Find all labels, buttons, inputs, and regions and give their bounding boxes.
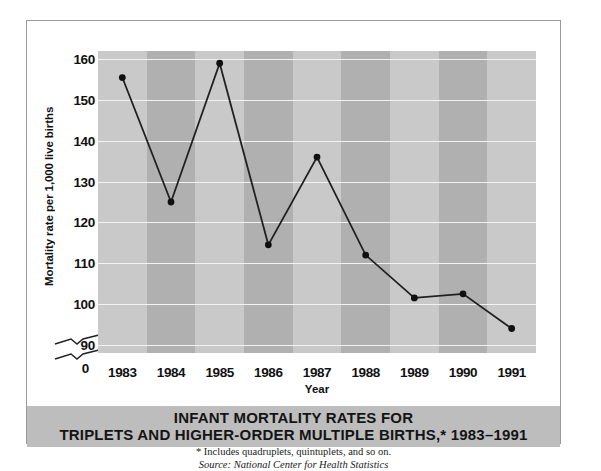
data-point-marker (168, 199, 175, 206)
x-axis-tick-labels: 198319841985198619871988198919901991 (98, 365, 536, 383)
data-point-marker (314, 154, 321, 161)
plot-area (98, 51, 536, 353)
y-axis-tick-labels: 16015014013012011010090 (41, 51, 95, 353)
y-tick-label: 100 (47, 297, 95, 312)
data-point-marker (119, 74, 126, 81)
data-point-marker (265, 241, 272, 248)
footnote-block: * Includes quadruplets, quintuplets, and… (27, 445, 560, 471)
chart-title-line-2: TRIPLETS AND HIGHER-ORDER MULTIPLE BIRTH… (27, 426, 560, 443)
y-tick-label: 120 (47, 215, 95, 230)
data-point-marker (508, 325, 515, 332)
y-tick-label: 130 (47, 174, 95, 189)
y-tick-label: 140 (47, 133, 95, 148)
data-point-marker (460, 290, 467, 297)
x-axis-title: Year (98, 383, 536, 395)
source-text: Source: National Center for Health Stati… (27, 458, 560, 471)
series-line (122, 63, 511, 328)
axis-break-icon (53, 333, 101, 363)
x-tick-label: 1991 (482, 365, 542, 380)
data-series (98, 51, 536, 353)
data-point-marker (362, 252, 369, 259)
y-tick-label: 160 (47, 52, 95, 67)
chart-region: Mortality rate per 1,000 live births 160… (27, 21, 560, 362)
chart-title-line-1: INFANT MORTALITY RATES FOR (27, 409, 560, 426)
data-point-marker (216, 60, 223, 67)
chart-title-band: INFANT MORTALITY RATES FOR TRIPLETS AND … (27, 406, 560, 447)
y-tick-label: 110 (47, 256, 95, 271)
data-point-marker (411, 295, 418, 302)
y-axis-zero-label: 0 (41, 361, 89, 376)
y-tick-label: 150 (47, 92, 95, 107)
figure-frame: Mortality rate per 1,000 live births 160… (26, 20, 561, 444)
footnote-text: * Includes quadruplets, quintuplets, and… (27, 445, 560, 458)
